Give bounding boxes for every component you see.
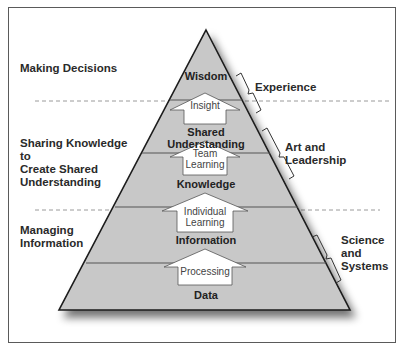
transition-line: Learning bbox=[177, 217, 233, 228]
layer-shared-understanding: Shared Understanding bbox=[160, 126, 252, 150]
right-label-line: Systems bbox=[341, 260, 388, 273]
transition-insight: Insight bbox=[184, 100, 226, 111]
left-label-managing-information: Managing Information bbox=[20, 224, 83, 250]
left-label-line: Managing bbox=[20, 224, 83, 237]
right-label-line: and bbox=[341, 247, 388, 260]
left-label-line: Create Shared bbox=[20, 163, 140, 176]
layer-wisdom: Wisdom bbox=[175, 70, 237, 82]
left-label-line: Information bbox=[20, 237, 83, 250]
layer-information: Information bbox=[160, 234, 252, 246]
layer-line: Shared bbox=[160, 126, 252, 138]
transition-line: Individual bbox=[177, 206, 233, 217]
left-label-making-decisions: Making Decisions bbox=[20, 62, 117, 75]
left-label-line: Sharing Knowledge to bbox=[20, 137, 140, 163]
transition-line: Team bbox=[183, 148, 227, 159]
layer-data: Data bbox=[175, 289, 237, 301]
left-label-sharing-knowledge: Sharing Knowledge to Create Shared Under… bbox=[20, 137, 140, 189]
left-label-line: Understanding bbox=[20, 176, 140, 189]
layer-knowledge: Knowledge bbox=[160, 178, 252, 190]
transition-team-learning: Team Learning bbox=[183, 148, 227, 170]
right-label-line: Art and bbox=[285, 141, 346, 154]
right-label-experience: Experience bbox=[255, 81, 316, 94]
right-label-art-leadership: Art and Leadership bbox=[285, 141, 346, 167]
transition-individual-learning: Individual Learning bbox=[177, 206, 233, 228]
transition-processing: Processing bbox=[178, 266, 232, 277]
right-label-science-systems: Science and Systems bbox=[341, 234, 388, 273]
right-label-line: Science bbox=[341, 234, 388, 247]
transition-line: Learning bbox=[183, 159, 227, 170]
right-label-line: Leadership bbox=[285, 154, 346, 167]
